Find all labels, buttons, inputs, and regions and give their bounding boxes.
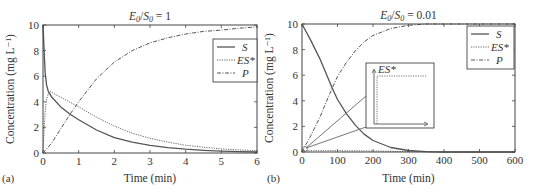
y-tick-label: 6 <box>34 70 40 82</box>
y-tick-label: 4 <box>34 96 40 108</box>
x-tick-label: 1 <box>76 155 82 167</box>
x-tick-label: 500 <box>471 154 488 166</box>
x-tick-label: 400 <box>436 154 453 166</box>
x-tick-label: 300 <box>400 154 417 166</box>
x-tick-label: 200 <box>365 154 382 166</box>
x-tick-label: 0 <box>299 154 305 166</box>
inset-label: ES* <box>377 63 396 75</box>
panel-label: (b) <box>267 172 280 185</box>
legend-entry: S <box>242 41 248 53</box>
x-tick-label: 100 <box>329 154 346 166</box>
y-axis-label: Concentration (mg L⁻¹) <box>4 34 17 144</box>
y-tick-label: 0 <box>293 146 299 158</box>
x-tick-label: 600 <box>507 154 524 166</box>
x-tick-label: 3 <box>147 155 153 167</box>
x-tick-label: 2 <box>112 155 118 167</box>
panel-b-chart: 01002003004005006000246810E0/S0 = 0.01Ti… <box>263 9 524 185</box>
x-axis-label: Time (min) <box>382 172 434 185</box>
y-tick-label: 10 <box>28 19 40 31</box>
series-esstar-line <box>43 92 257 153</box>
legend-entry: S <box>496 28 502 40</box>
panel-a-chart: 01234560246810E0/S0 = 1Time (min)Concent… <box>2 10 260 185</box>
y-tick-label: 2 <box>34 121 40 133</box>
x-axis-label: Time (min) <box>124 172 176 185</box>
inset-zoom: ES* <box>303 63 435 152</box>
legend-entry: P <box>495 54 503 66</box>
legend: SES*P <box>467 26 514 69</box>
y-tick-label: 8 <box>34 45 40 57</box>
y-tick-label: 10 <box>287 18 299 30</box>
legend: SES*P <box>213 39 257 82</box>
x-tick-label: 0 <box>40 155 46 167</box>
legend-entry: ES* <box>490 41 509 53</box>
chart-title: E0/S0 = 0.01 <box>379 9 437 23</box>
y-tick-label: 6 <box>293 69 299 81</box>
figure: 01234560246810E0/S0 = 1Time (min)Concent… <box>0 0 534 193</box>
y-tick-label: 2 <box>293 120 299 132</box>
x-tick-label: 6 <box>254 155 260 167</box>
legend-entry: ES* <box>236 54 255 66</box>
legend-entry: P <box>241 67 249 79</box>
x-tick-label: 5 <box>219 155 225 167</box>
panel-label: (a) <box>2 172 15 185</box>
y-tick-label: 4 <box>293 95 299 107</box>
y-tick-label: 8 <box>293 44 299 56</box>
chart-title: E0/S0 = 1 <box>128 10 171 24</box>
y-axis-label: Concentration (mg L⁻¹) <box>263 33 276 143</box>
y-tick-label: 0 <box>34 147 40 159</box>
x-tick-label: 4 <box>183 155 189 167</box>
